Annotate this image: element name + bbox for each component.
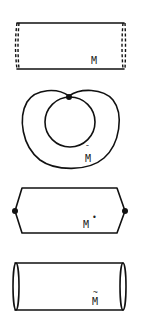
strip-right-dashed-edge: [122, 23, 123, 69]
panel-m-bar: ¯ M: [22, 90, 119, 168]
pinched-hexagon: [15, 188, 125, 233]
topology-diagram: M ¯ M M • ~ M: [0, 0, 141, 323]
junction-point: [66, 94, 72, 100]
panel-m: M: [16, 23, 126, 69]
label-m-star-accent: •: [92, 213, 97, 222]
label-m-star: M: [83, 219, 89, 230]
panel-m-tilde: ~ M: [13, 263, 126, 310]
label-m-bar: M: [85, 153, 91, 164]
cylinder-right-cap: [120, 263, 126, 310]
right-pinch-point: [122, 208, 128, 214]
panel-m-star: M •: [12, 188, 128, 233]
outer-cardioid-curve: [22, 90, 119, 168]
left-pinch-point: [12, 208, 18, 214]
cylinder-left-cap: [13, 263, 19, 310]
strip-right-dashed-edge-outer: [125, 23, 126, 69]
label-m-tilde: M: [92, 296, 98, 307]
label-m: M: [91, 55, 97, 66]
strip-left-dashed-edge: [16, 23, 18, 69]
inner-circle: [45, 97, 95, 147]
strip-left-dashed-edge-inner: [18, 23, 19, 69]
